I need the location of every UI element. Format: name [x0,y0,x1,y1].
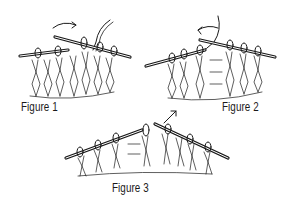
figure-3-label: Figure 3 [112,181,149,195]
figure-2-drawing [146,16,275,100]
figure-1-label: Figure 1 [21,100,58,114]
figure-3-drawing [66,111,228,176]
figure-1-drawing [20,20,130,98]
figure-2-label: Figure 2 [222,100,259,114]
